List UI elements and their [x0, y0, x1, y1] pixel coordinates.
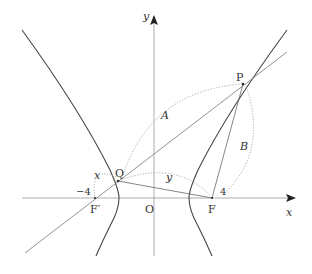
- point-Q: [117, 180, 120, 183]
- point-F-prime-coord-label: −4: [76, 187, 91, 197]
- segment-p-f: [212, 84, 243, 198]
- segment-B-label: B: [240, 141, 248, 152]
- hyperbola-right-branch: [189, 30, 287, 256]
- dotted-arc-B: [226, 86, 254, 192]
- hyperbola-diagram: [0, 0, 312, 274]
- point-F-prime-label: F′: [90, 204, 100, 215]
- segment-y-label: y: [166, 172, 172, 183]
- point-F: [211, 197, 213, 199]
- origin-label: O: [145, 204, 154, 215]
- segment-A-label: A: [161, 110, 169, 121]
- point-F-label: F: [208, 204, 216, 215]
- x-axis-label: x: [286, 207, 292, 218]
- segment-q-f: [118, 181, 212, 198]
- point-F-coord-label: 4: [220, 187, 226, 197]
- point-P-label: P: [236, 72, 243, 83]
- hyperbola-left-branch: [22, 30, 119, 256]
- segment-x-label: x: [94, 170, 100, 181]
- point-F-prime: [94, 197, 96, 199]
- y-axis-label: y: [143, 11, 149, 22]
- point-Q-label: Q: [115, 168, 124, 179]
- dotted-arc-A: [122, 84, 243, 178]
